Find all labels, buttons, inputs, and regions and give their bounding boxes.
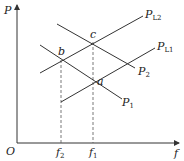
point-c-label: c <box>90 28 96 41</box>
x-axis-label: f <box>173 147 180 160</box>
point-b-label: b <box>58 45 65 58</box>
origin-label: O <box>6 145 15 158</box>
curve-PL2-label: PL2 <box>144 8 162 22</box>
curve-PL2 <box>40 16 143 73</box>
economics-diagram: P f O f2 f1 b c a PL2 PL1 P2 P1 <box>0 0 184 161</box>
tick-f1: f1 <box>88 146 98 160</box>
point-a-label: a <box>97 75 104 88</box>
curve-P1-label: P1 <box>121 96 134 110</box>
curve-PL1-label: PL1 <box>156 40 174 54</box>
curve-P2-label: P2 <box>137 65 150 79</box>
y-axis-label: P <box>3 4 12 17</box>
tick-f2: f2 <box>55 146 65 160</box>
